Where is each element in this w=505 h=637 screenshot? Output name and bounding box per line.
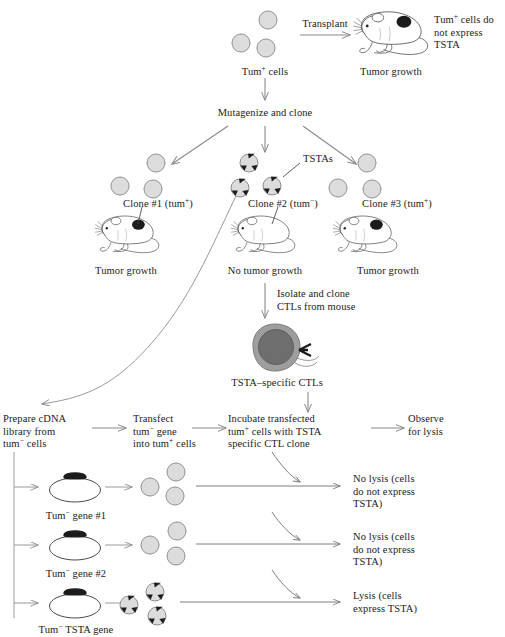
clone-3-label: Clone #3 (tum+) (362, 198, 432, 211)
clone-2-cells (231, 154, 281, 197)
workflow-observe: Observefor lysis (408, 413, 444, 438)
gene-row-1-graphics (14, 452, 340, 505)
tum-gene-2-label: Tum− gene #2 (46, 568, 106, 581)
diagram-graphics (0, 0, 505, 637)
top-mouse-tumor-growth (353, 12, 428, 55)
clone-2-outcome: No tumor growth (228, 265, 302, 278)
mutagenize-label: Mutagenize and clone (218, 107, 313, 120)
clone-1-label: Clone #1 (tum+) (123, 198, 193, 211)
tstas-callout-label: TSTAs (303, 153, 333, 166)
clone-3-mouse (333, 216, 397, 253)
diagram-canvas: Tum+ cells Transplant Tumor growth Tum+ … (0, 0, 505, 637)
result-row-1: No lysis (cellsdo not expressTSTA) (353, 473, 415, 511)
clone-1-cells (111, 154, 165, 198)
ctl-label: TSTA–specific CTLs (231, 377, 323, 390)
branch-arrow-clone1 (172, 126, 228, 164)
clone-3-cells (329, 154, 381, 198)
workflow-transfect: Transfecttum− geneinto tum+ cells (133, 413, 196, 451)
clone-3-outcome: Tumor growth (357, 265, 419, 278)
isolate-ctl-label: Isolate and cloneCTLs from mouse (277, 288, 356, 313)
ctl-cell (253, 324, 319, 371)
tsta-callout-line (283, 163, 300, 177)
tum-tsta-gene-label: Tum− TSTA gene (39, 624, 114, 637)
clone-2-label: Clone #2 (tum−) (248, 198, 318, 211)
result-row-2: No lysis (cellsdo not expressTSTA) (353, 531, 415, 569)
top-tumor-growth-label: Tumor growth (360, 66, 422, 79)
top-source-cells-group (232, 11, 277, 57)
tum-plus-annotation: Tum+ cells donot expressTSTA (434, 14, 494, 52)
transplant-label: Transplant (302, 18, 348, 31)
source-cells-label: Tum+ cells (242, 66, 289, 79)
clone-1-mouse (95, 216, 159, 253)
workflow-prepare-cdna: Prepare cDNAlibrary fromtum− cells (3, 413, 66, 451)
workflow-incubate: Incubate transfectedtum+ cells with TSTA… (228, 413, 322, 451)
clone-1-outcome: Tumor growth (95, 265, 157, 278)
tum-gene-1-label: Tum− gene #1 (46, 510, 106, 523)
clone-2-mouse (231, 216, 295, 253)
result-row-3: Lysis (cellsexpress TSTA) (353, 590, 417, 615)
